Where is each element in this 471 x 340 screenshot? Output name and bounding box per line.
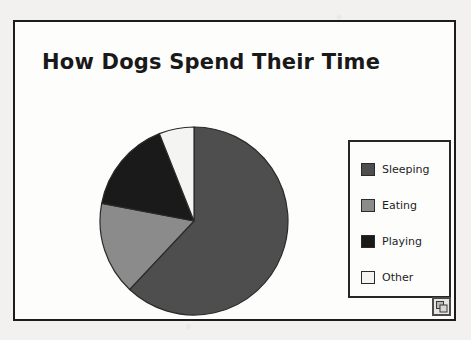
- pie-slice-group: [100, 127, 288, 315]
- chart-title: How Dogs Spend Their Time: [42, 50, 380, 74]
- legend-swatch-playing: [361, 235, 375, 248]
- chart-frame: How Dogs Spend Their Time Sleeping Eatin…: [13, 20, 456, 321]
- legend-item-sleeping[interactable]: Sleeping: [361, 151, 449, 187]
- legend-swatch-eating: [361, 199, 375, 212]
- legend-item-other[interactable]: Other: [361, 259, 449, 295]
- legend-label-other: Other: [382, 271, 413, 284]
- legend-label-sleeping: Sleeping: [382, 163, 430, 176]
- pie-chart: [98, 125, 290, 317]
- legend-swatch-sleeping: [361, 163, 375, 176]
- legend-label-playing: Playing: [382, 235, 422, 248]
- pie-chart-svg: [98, 125, 290, 317]
- legend-swatch-other: [361, 271, 375, 284]
- legend-item-playing[interactable]: Playing: [361, 223, 449, 259]
- legend-item-eating[interactable]: Eating: [361, 187, 449, 223]
- embedded-object-handle[interactable]: [432, 297, 451, 316]
- legend-label-eating: Eating: [382, 199, 417, 212]
- page-canvas: How Dogs Spend Their Time Sleeping Eatin…: [0, 0, 471, 340]
- chart-legend: Sleeping Eating Playing Other: [348, 140, 451, 298]
- overlapping-squares-icon: [436, 301, 448, 313]
